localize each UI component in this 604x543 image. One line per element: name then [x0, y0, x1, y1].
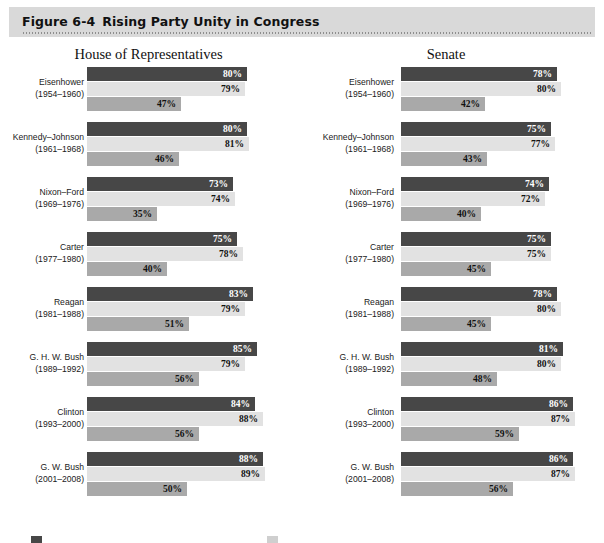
figure-header-band: Figure 6-4Rising Party Unity in Congress	[9, 7, 595, 37]
bar-value-label: 73%	[209, 177, 228, 191]
bar-value-label: 78%	[219, 247, 238, 261]
bar-value-label: 80%	[223, 67, 242, 81]
bar-series-2: 79%	[87, 357, 245, 371]
bar-group: Kennedy–Johnson(1961–1968)80%81%46%	[0, 121, 300, 176]
bar-group-list-senate: Eisenhower(1954–1960)78%80%42%Kennedy–Jo…	[300, 66, 604, 506]
bar-group: G. W. Bush(2001–2008)86%87%56%	[300, 451, 604, 506]
bar-group: Nixon–Ford(1969–1976)73%74%35%	[0, 176, 300, 231]
bar-group-label: Reagan(1981–1988)	[0, 297, 84, 320]
bar-series-3: 40%	[401, 207, 481, 221]
bar-series-1: 75%	[401, 122, 551, 136]
bar-value-label: 88%	[239, 412, 258, 426]
bar-group-label: Clinton(1993–2000)	[310, 407, 394, 430]
bar-group-label-years: (1981–1988)	[0, 309, 84, 321]
bar-group-label-years: (1969–1976)	[0, 199, 84, 211]
bar-series-3: 42%	[401, 97, 485, 111]
bar-series-3: 45%	[401, 262, 491, 276]
bar-group-label-years: (1989–1992)	[310, 364, 394, 376]
bar-stack: 78%80%45%	[401, 287, 561, 332]
bar-group: Kennedy–Johnson(1961–1968)75%77%43%	[300, 121, 604, 176]
bar-group-label-name: Eisenhower	[0, 77, 84, 89]
bar-group-list-house: Eisenhower(1954–1960)80%79%47%Kennedy–Jo…	[0, 66, 300, 506]
bar-value-label: 80%	[223, 122, 242, 136]
figure-number: Figure 6-4	[22, 14, 95, 29]
bar-value-label: 56%	[175, 372, 194, 386]
bar-value-label: 48%	[473, 372, 492, 386]
bar-series-1: 75%	[87, 232, 237, 246]
bar-group-label-name: Reagan	[0, 297, 84, 309]
bar-series-2: 80%	[401, 82, 561, 96]
bar-group-label-name: G. W. Bush	[310, 462, 394, 474]
bar-stack: 80%79%47%	[87, 67, 247, 112]
bar-group-label-years: (1993–2000)	[0, 419, 84, 431]
bar-group-label: G. H. W. Bush(1989–1992)	[310, 352, 394, 375]
bar-group-label-years: (1993–2000)	[310, 419, 394, 431]
bar-value-label: 43%	[463, 152, 482, 166]
bar-stack: 75%77%43%	[401, 122, 555, 167]
bar-series-1: 85%	[87, 342, 257, 356]
bar-value-label: 47%	[157, 97, 176, 111]
bar-series-1: 80%	[87, 67, 247, 81]
bar-series-2: 88%	[87, 412, 263, 426]
bar-series-1: 88%	[87, 452, 263, 466]
bar-series-1: 74%	[401, 177, 549, 191]
bar-value-label: 74%	[211, 192, 230, 206]
bar-stack: 81%80%48%	[401, 342, 563, 387]
bar-value-label: 40%	[457, 207, 476, 221]
bar-series-1: 73%	[87, 177, 233, 191]
legend	[0, 534, 604, 543]
bar-group-label-name: G. H. W. Bush	[0, 352, 84, 364]
bar-value-label: 78%	[533, 287, 552, 301]
panel-title-house: House of Representatives	[8, 44, 289, 66]
bar-value-label: 86%	[549, 397, 568, 411]
bar-series-2: 79%	[87, 302, 245, 316]
bar-group: Carter(1977–1980)75%78%40%	[0, 231, 300, 286]
panel-senate: Senate Eisenhower(1954–1960)78%80%42%Ken…	[300, 44, 604, 506]
bar-series-2: 81%	[87, 137, 249, 151]
bar-value-label: 86%	[549, 452, 568, 466]
bar-stack: 86%87%59%	[401, 397, 575, 442]
bar-series-1: 78%	[401, 287, 557, 301]
bar-group-label-years: (1981–1988)	[310, 309, 394, 321]
bar-series-2: 79%	[87, 82, 245, 96]
bar-group-label: Nixon–Ford(1969–1976)	[310, 187, 394, 210]
bar-value-label: 51%	[165, 317, 184, 331]
panel-house-of-representatives: House of Representatives Eisenhower(1954…	[0, 44, 300, 506]
bar-series-1: 83%	[87, 287, 253, 301]
bar-series-3: 50%	[87, 482, 187, 496]
bar-value-label: 75%	[527, 122, 546, 136]
bar-stack: 73%74%35%	[87, 177, 235, 222]
panel-title-senate: Senate	[312, 44, 580, 66]
bar-group: Eisenhower(1954–1960)78%80%42%	[300, 66, 604, 121]
bar-value-label: 72%	[521, 192, 540, 206]
bar-group: Reagan(1981–1988)78%80%45%	[300, 286, 604, 341]
bar-value-label: 79%	[221, 357, 240, 371]
bar-value-label: 35%	[133, 207, 152, 221]
bar-value-label: 45%	[467, 317, 486, 331]
bar-stack: 83%79%51%	[87, 287, 253, 332]
legend-swatch-icon	[267, 536, 278, 543]
bar-series-3: 43%	[401, 152, 487, 166]
bar-value-label: 87%	[551, 467, 570, 481]
bar-stack: 86%87%56%	[401, 452, 575, 497]
bar-series-2: 87%	[401, 412, 575, 426]
bar-series-1: 75%	[401, 232, 551, 246]
bar-series-2: 77%	[401, 137, 555, 151]
bar-value-label: 46%	[155, 152, 174, 166]
legend-item-series-1	[31, 536, 42, 543]
figure-header-row: Figure 6-4Rising Party Unity in Congress	[22, 12, 319, 30]
bar-group-label-years: (1969–1976)	[310, 199, 394, 211]
bar-value-label: 83%	[229, 287, 248, 301]
bar-value-label: 59%	[495, 427, 514, 441]
bar-value-label: 75%	[213, 232, 232, 246]
bar-value-label: 80%	[537, 302, 556, 316]
bar-value-label: 89%	[241, 467, 260, 481]
bar-series-3: 35%	[87, 207, 157, 221]
bar-series-3: 56%	[87, 372, 199, 386]
bar-value-label: 84%	[231, 397, 250, 411]
bar-value-label: 56%	[489, 482, 508, 496]
bar-group-label: Nixon–Ford(1969–1976)	[0, 187, 84, 210]
bar-value-label: 87%	[551, 412, 570, 426]
bar-group-label-name: Nixon–Ford	[0, 187, 84, 199]
bar-series-3: 47%	[87, 97, 181, 111]
